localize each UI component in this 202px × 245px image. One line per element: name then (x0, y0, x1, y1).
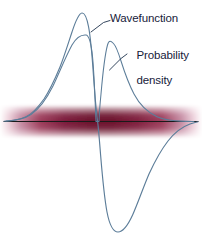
wavefunction-leader-line (91, 21, 110, 33)
probability-density-label-line2: density (136, 74, 172, 86)
wavefunction-label: Wavefunction (110, 12, 178, 25)
probability-density-label: Probability density (124, 36, 189, 99)
probability-density-label-line1: Probability (136, 49, 189, 61)
wavefunction-probability-density-figure: Wavefunction Probability density (0, 0, 202, 245)
